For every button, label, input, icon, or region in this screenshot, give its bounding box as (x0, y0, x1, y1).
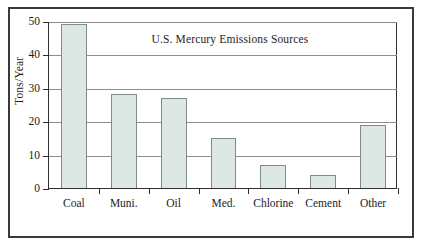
y-tick-mark (43, 22, 49, 23)
bar (260, 165, 286, 188)
bar (310, 175, 336, 188)
gridline (49, 22, 397, 23)
y-tick-mark (43, 189, 49, 190)
y-tick-label: 50 (29, 16, 41, 28)
gridline (49, 89, 397, 90)
y-tick-mark (43, 122, 49, 123)
x-tick-label: Coal (63, 198, 85, 210)
y-tick-label: 0 (34, 183, 40, 195)
y-tick-label: 30 (29, 83, 41, 95)
x-tick-mark (298, 188, 299, 194)
x-tick-label: Other (360, 198, 386, 210)
y-tick-label: 10 (29, 150, 41, 162)
x-tick-mark (398, 188, 399, 194)
plot-right-axis-rule (396, 22, 397, 188)
x-tick-mark (199, 188, 200, 194)
bar (61, 24, 87, 188)
bar (211, 138, 237, 188)
bar (111, 94, 137, 188)
plot-area: U.S. Mercury Emissions Sources 010203040… (48, 22, 397, 189)
bar (360, 125, 386, 188)
x-tick-mark (248, 188, 249, 194)
y-tick-label: 40 (29, 50, 41, 62)
chart-figure: Tons/Year U.S. Mercury Emissions Sources… (0, 0, 423, 246)
y-tick-mark (43, 55, 49, 56)
x-tick-label: Cement (305, 198, 341, 210)
y-tick-mark (43, 156, 49, 157)
gridline (49, 122, 397, 123)
x-tick-mark (348, 188, 349, 194)
y-tick-mark (43, 89, 49, 90)
x-tick-mark (99, 188, 100, 194)
x-tick-label: Oil (166, 198, 181, 210)
bar (161, 98, 187, 188)
gridline (49, 55, 397, 56)
x-tick-label: Muni. (110, 198, 138, 210)
y-tick-label: 20 (29, 116, 41, 128)
y-axis-title: Tons/Year (13, 57, 25, 105)
chart-title: U.S. Mercury Emissions Sources (152, 33, 309, 45)
x-tick-label: Med. (212, 198, 236, 210)
x-tick-mark (149, 188, 150, 194)
x-tick-label: Chlorine (253, 198, 293, 210)
